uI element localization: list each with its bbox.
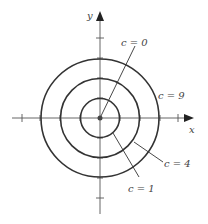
leader-c4	[134, 142, 163, 162]
y-axis-arrow-icon	[96, 11, 104, 21]
x-axis-arrow-icon	[184, 114, 194, 122]
y-axis-label: y	[86, 10, 93, 21]
leader-c0	[101, 46, 135, 116]
level-curve-diagram: y x c = 0 c = 9 c = 4 c = 1	[0, 0, 208, 224]
label-c4: c = 4	[164, 158, 191, 169]
level-curve-c0-point	[98, 116, 103, 121]
x-axis-label: x	[189, 124, 195, 135]
label-c1: c = 1	[128, 183, 155, 194]
label-c9: c = 9	[158, 90, 185, 101]
label-c0: c = 0	[121, 37, 148, 48]
